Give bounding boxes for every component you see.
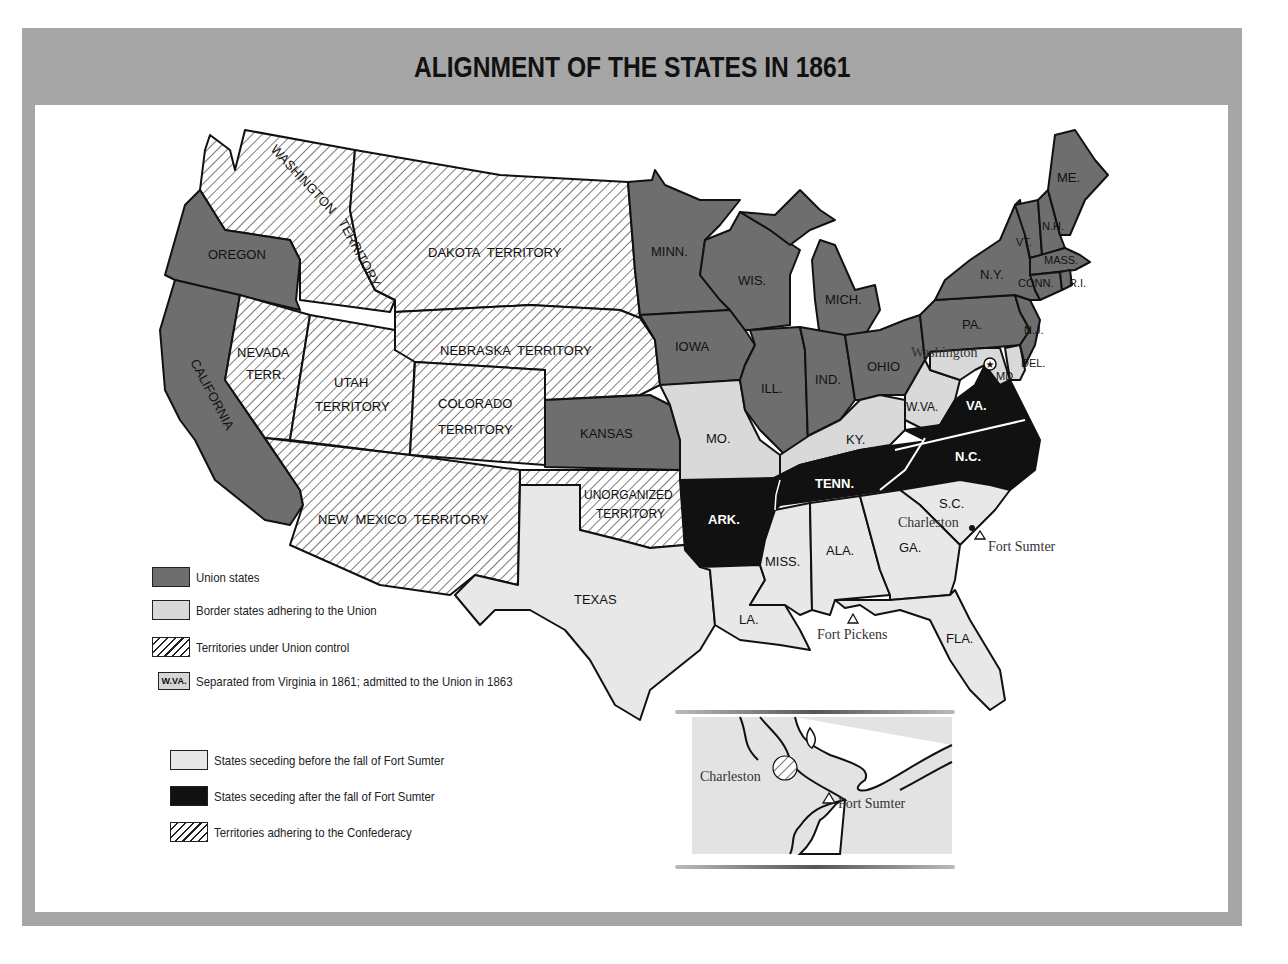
inset-bottom-rule [675, 865, 955, 869]
label-ill: ILL. [761, 381, 783, 396]
legend-confederate-territories: Territories adhering to the Confederacy [170, 822, 439, 842]
legend-label: Territories adhering to the Confederacy [214, 825, 412, 840]
legend-seceding-after: States seceding after the fall of Fort S… [170, 786, 465, 806]
legend-union-states: Union states [152, 567, 268, 587]
label-ky: KY. [846, 432, 865, 447]
label-oregon: OREGON [208, 247, 266, 262]
label-colorado: COLORADO [438, 396, 512, 411]
label-colorado-territory: TERRITORY [438, 422, 513, 437]
label-utah-territory: TERRITORY [315, 399, 390, 414]
label-mich: MICH. [825, 292, 862, 307]
label-iowa: IOWA [675, 339, 710, 354]
label-vt: VT. [1016, 236, 1032, 248]
capital-star-icon: ★ [984, 358, 996, 370]
label-ark: ARK. [708, 512, 740, 527]
label-la: LA. [739, 612, 759, 627]
colorado-territory [410, 362, 545, 465]
map-panel: WASHINGTON TERRITORY OREGON CALIFORNIA D… [35, 105, 1228, 912]
legend-swatch-union [152, 567, 190, 587]
legend-swatch-wva: W.VA. [158, 672, 190, 690]
label-tenn: TENN. [815, 476, 854, 491]
label-ohio: OHIO [867, 359, 900, 374]
label-md: MD. [996, 370, 1016, 382]
state-fla [835, 590, 1005, 710]
label-mass: MASS. [1044, 254, 1078, 266]
label-new-mexico: NEW MEXICO TERRITORY [318, 512, 489, 527]
label-ny: N.Y. [980, 267, 1004, 282]
legend-border-states: Border states adhering to the Union [152, 600, 401, 620]
dakota-territory [350, 150, 640, 318]
label-fort-sumter: Fort Sumter [988, 539, 1056, 554]
label-texas: TEXAS [574, 592, 617, 607]
label-nh: N.H. [1042, 220, 1064, 232]
legend-label: Separated from Virginia in 1861; admitte… [196, 674, 513, 689]
label-utah: UTAH [334, 375, 368, 390]
inset-label-charleston: Charleston [700, 769, 761, 784]
legend-swatch-hatch [170, 822, 208, 842]
legend-label: States seceding after the fall of Fort S… [214, 789, 435, 804]
label-ind: IND. [815, 372, 841, 387]
legend-label: Union states [196, 570, 260, 585]
label-ri: R.I. [1069, 277, 1086, 289]
label-ga: GA. [899, 540, 921, 555]
label-minn: MINN. [651, 244, 688, 259]
label-kansas: KANSAS [580, 426, 633, 441]
label-ala: ALA. [826, 543, 854, 558]
state-mich-lower [812, 240, 880, 338]
label-fla: FLA. [946, 631, 973, 646]
legend-swatch-border [152, 600, 190, 620]
label-me: ME. [1057, 170, 1080, 185]
legend-wva: W.VA. Separated from Virginia in 1861; a… [158, 672, 556, 690]
svg-text:★: ★ [986, 359, 995, 370]
label-wis: WIS. [738, 273, 766, 288]
label-nebraska: NEBRASKA TERRITORY [440, 343, 592, 358]
page-title: ALIGNMENT OF THE STATES IN 1861 [414, 50, 850, 84]
label-pa: PA. [962, 317, 982, 332]
map-frame: ALIGNMENT OF THE STATES IN 1861 [22, 28, 1242, 926]
label-va: VA. [966, 398, 987, 413]
title-bar: ALIGNMENT OF THE STATES IN 1861 [22, 28, 1242, 105]
fort-sumter-triangle-icon [975, 531, 985, 539]
label-conn: CONN. [1018, 277, 1053, 289]
label-wva: W.VA. [906, 400, 938, 414]
label-nc: N.C. [955, 449, 981, 464]
label-del: DEL. [1021, 357, 1045, 369]
label-nj: N.J. [1024, 324, 1044, 336]
label-nevada: NEVADA [237, 345, 290, 360]
label-fort-pickens: Fort Pickens [817, 627, 887, 642]
charleston-harbor-inset: Charleston Fort Sumter [692, 717, 952, 854]
fort-pickens-triangle-icon [848, 614, 858, 623]
inset-top-rule [675, 710, 955, 714]
charleston-city-hatch [773, 756, 797, 780]
label-dakota: DAKOTA TERRITORY [428, 245, 562, 260]
label-miss: MISS. [765, 554, 800, 569]
legend-union-territories: Territories under Union control [152, 637, 370, 657]
inset-label-fort-sumter: Fort Sumter [838, 796, 906, 811]
label-washington-dc: Washington [911, 345, 978, 360]
legend-seceding-before: States seceding before the fall of Fort … [170, 750, 476, 770]
label-charleston: Charleston [898, 515, 959, 530]
label-unorganized: UNORGANIZED [584, 488, 673, 502]
legend-label: Border states adhering to the Union [196, 603, 377, 618]
charleston-dot-icon [969, 525, 975, 531]
label-sc: S.C. [939, 496, 964, 511]
legend-swatch-seceding-after [170, 786, 208, 806]
legend-label: Territories under Union control [196, 640, 349, 655]
label-unorganized-territory: TERRITORY [596, 507, 665, 521]
legend-swatch-hatch [152, 637, 190, 657]
label-nevada-terr: TERR. [246, 367, 285, 382]
legend-swatch-seceding-before [170, 750, 208, 770]
label-mo: MO. [706, 431, 731, 446]
legend-label: States seceding before the fall of Fort … [214, 753, 444, 768]
